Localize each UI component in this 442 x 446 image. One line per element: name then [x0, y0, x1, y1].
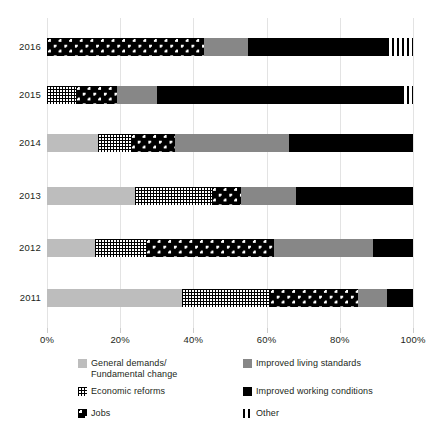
bar-segment-reforms [95, 239, 146, 257]
legend-item-reforms[interactable]: Economic reforms [78, 386, 165, 397]
bar-segment-living [241, 187, 296, 205]
legend-swatch-general-icon [78, 359, 87, 368]
bar-segment-jobs [146, 239, 274, 257]
tick-mark-100 [413, 328, 414, 333]
bar-segment-general [47, 239, 95, 257]
bar-track [47, 239, 413, 257]
tick-mark-40 [193, 328, 194, 333]
tick-mark-0 [47, 328, 48, 333]
bar-segment-jobs [76, 86, 116, 104]
bar-row-2013: 2013 [0, 185, 442, 207]
gridline-40 [193, 18, 194, 328]
bar-segment-reforms [98, 134, 131, 152]
bar-segment-other [402, 86, 413, 104]
year-label-2015: 2015 [0, 84, 41, 106]
legend-label-reforms: Economic reforms [91, 386, 165, 397]
legend-label-living: Improved living standards [256, 358, 361, 369]
tick-mark-80 [340, 328, 341, 333]
year-label-2012: 2012 [0, 237, 41, 259]
bar-track [47, 134, 413, 152]
bar-segment-reforms [182, 289, 270, 307]
x-axis-label-40: 40% [184, 334, 204, 345]
bar-segment-jobs [212, 187, 241, 205]
bar-segment-reforms [47, 86, 76, 104]
bar-segment-living [204, 38, 248, 56]
year-label-2011: 2011 [0, 287, 41, 309]
legend-swatch-other-icon [243, 409, 252, 418]
bar-segment-working [289, 134, 413, 152]
legend-label-working: Improved working conditions [256, 386, 373, 397]
bar-segment-living [274, 239, 373, 257]
bar-row-2012: 2012 [0, 237, 442, 259]
bar-row-2016: 2016 [0, 36, 442, 58]
x-axis-label-60: 60% [257, 334, 277, 345]
x-axis-label-80: 80% [330, 334, 350, 345]
bar-track [47, 187, 413, 205]
legend-swatch-jobs-icon [78, 409, 87, 418]
bar-segment-living [358, 289, 387, 307]
gridline-20 [120, 18, 121, 328]
chart-legend: General demands/ Fundamental changeEcono… [0, 358, 442, 446]
legend-swatch-reforms-icon [78, 387, 87, 396]
bar-segment-living [117, 86, 157, 104]
bar-segment-reforms [135, 187, 212, 205]
bar-segment-other [387, 38, 413, 56]
bar-segment-general [47, 134, 98, 152]
gridline-60 [267, 18, 268, 328]
bar-segment-general [47, 187, 135, 205]
bar-segment-working [157, 86, 402, 104]
year-label-2016: 2016 [0, 36, 41, 58]
legend-swatch-living-icon [243, 359, 252, 368]
legend-item-working[interactable]: Improved working conditions [243, 386, 373, 397]
bar-segment-jobs [47, 38, 204, 56]
tick-mark-60 [267, 328, 268, 333]
bar-segment-working [373, 239, 413, 257]
bar-segment-working [296, 187, 413, 205]
bar-track [47, 289, 413, 307]
x-axis-label-100: 100% [400, 334, 425, 345]
year-label-2013: 2013 [0, 185, 41, 207]
legend-item-other[interactable]: Other [243, 408, 279, 419]
bar-segment-general [47, 289, 182, 307]
bar-segment-working [387, 289, 413, 307]
x-axis-label-20: 20% [110, 334, 130, 345]
bar-segment-jobs [270, 289, 358, 307]
bar-segment-jobs [131, 134, 175, 152]
tick-mark-20 [120, 328, 121, 333]
legend-label-general: General demands/ Fundamental change [91, 358, 177, 380]
stacked-bar-chart: 2016201520142013201220110%20%40%60%80%10… [0, 0, 442, 340]
year-label-2014: 2014 [0, 132, 41, 154]
x-axis-label-0: 0% [40, 334, 54, 345]
bar-track [47, 86, 413, 104]
bar-row-2015: 2015 [0, 84, 442, 106]
legend-item-living[interactable]: Improved living standards [243, 358, 361, 369]
gridline-100 [413, 18, 414, 328]
bar-track [47, 38, 413, 56]
bar-row-2011: 2011 [0, 287, 442, 309]
gridline-0 [47, 18, 48, 328]
bar-segment-working [248, 38, 387, 56]
legend-swatch-working-icon [243, 387, 252, 396]
bar-row-2014: 2014 [0, 132, 442, 154]
legend-item-general[interactable]: General demands/ Fundamental change [78, 358, 177, 380]
gridline-80 [340, 18, 341, 328]
legend-item-jobs[interactable]: Jobs [78, 408, 110, 419]
bar-segment-living [175, 134, 288, 152]
legend-label-jobs: Jobs [91, 408, 110, 419]
legend-label-other: Other [256, 408, 279, 419]
